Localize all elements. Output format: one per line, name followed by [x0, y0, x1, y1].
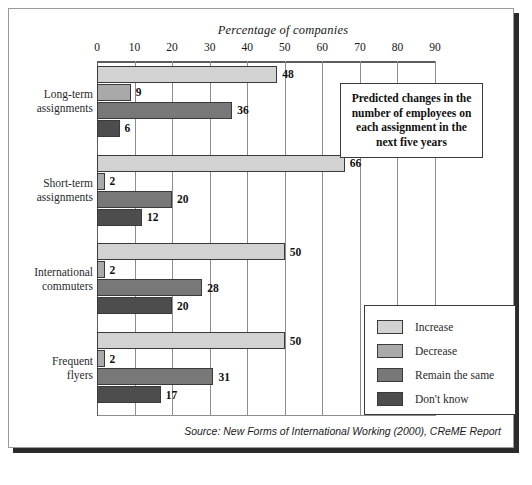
bar-value-label: 50 — [285, 335, 302, 347]
category-label-line: assignments — [9, 101, 93, 115]
bar-decrease — [97, 350, 105, 367]
bar-value-label: 36 — [232, 104, 249, 116]
legend-swatch-icon — [377, 368, 403, 382]
category-label-line: assignments — [9, 190, 93, 204]
x-tick-label-10: 10 — [129, 41, 141, 53]
x-tick-label-80: 80 — [392, 41, 404, 53]
bar-remain-the-same — [97, 102, 232, 119]
figure-card: Percentage of companies 0102030405060708… — [8, 8, 514, 448]
bar-value-label: 66 — [345, 157, 362, 169]
category-label-4: Frequentflyers — [9, 354, 93, 382]
bar-row: 50 — [97, 243, 435, 260]
legend-label: Decrease — [415, 345, 457, 357]
bar-increase — [97, 332, 285, 349]
category-label-line: flyers — [9, 368, 93, 382]
bar-value-label: 2 — [105, 353, 116, 365]
bar-row: 48 — [97, 66, 435, 83]
x-tick-label-40: 40 — [241, 41, 253, 53]
x-axis-line — [97, 61, 435, 63]
legend-item[interactable]: Remain the same — [377, 363, 515, 387]
x-tick-label-90: 90 — [429, 41, 441, 53]
x-tick-label-30: 30 — [204, 41, 216, 53]
bar-row: 2 — [97, 173, 435, 190]
bar-row: 2 — [97, 261, 435, 278]
bar-increase — [97, 243, 285, 260]
source-note: Source: New Forms of International Worki… — [184, 425, 501, 437]
category-label-2: Short-termassignments — [9, 176, 93, 204]
bar-increase — [97, 155, 345, 172]
bar-value-label: 9 — [131, 86, 142, 98]
bar-decrease — [97, 84, 131, 101]
bar-value-label: 2 — [105, 175, 116, 187]
x-tick-label-50: 50 — [279, 41, 291, 53]
bar-value-label: 12 — [142, 211, 159, 223]
bar-value-label: 17 — [161, 389, 178, 401]
x-tick-label-60: 60 — [317, 41, 329, 53]
bar-value-label: 31 — [213, 371, 230, 383]
category-label-line: commuters — [9, 279, 93, 293]
plot-bottom-border — [97, 415, 435, 416]
legend-swatch-icon — [377, 344, 403, 358]
bar-group: 6622012 — [97, 155, 435, 226]
bar-remain-the-same — [97, 279, 202, 296]
x-tick-label-0: 0 — [94, 41, 100, 53]
bar-don-t-know — [97, 297, 172, 314]
category-label-1: Long-termassignments — [9, 87, 93, 115]
axis-title: Percentage of companies — [9, 23, 513, 38]
category-label-line: Short-term — [9, 176, 93, 190]
legend-label: Remain the same — [415, 369, 494, 381]
bar-value-label: 28 — [202, 282, 219, 294]
bar-value-label: 50 — [285, 246, 302, 258]
bar-row: 20 — [97, 191, 435, 208]
x-axis-tick-labels: 0102030405060708090 — [97, 41, 435, 57]
category-label-3: Internationalcommuters — [9, 265, 93, 293]
bar-remain-the-same — [97, 368, 213, 385]
bar-decrease — [97, 261, 105, 278]
legend-label: Don't know — [415, 393, 469, 405]
bar-don-t-know — [97, 209, 142, 226]
bar-value-label: 48 — [277, 68, 294, 80]
bar-don-t-know — [97, 120, 120, 137]
bar-value-label: 6 — [120, 122, 131, 134]
legend-item[interactable]: Decrease — [377, 339, 515, 363]
bar-don-t-know — [97, 386, 161, 403]
category-label-line: Long-term — [9, 87, 93, 101]
legend-swatch-icon — [377, 320, 403, 334]
x-tick-label-20: 20 — [166, 41, 178, 53]
category-label-line: International — [9, 265, 93, 279]
legend-item[interactable]: Don't know — [377, 387, 515, 411]
bar-increase — [97, 66, 277, 83]
bar-row: 28 — [97, 279, 435, 296]
annotation-callout: Predicted changes in the number of emplo… — [340, 83, 483, 158]
bar-value-label: 20 — [172, 300, 189, 312]
bar-decrease — [97, 173, 105, 190]
legend-swatch-icon — [377, 392, 403, 406]
legend-item[interactable]: Increase — [377, 315, 515, 339]
category-label-line: Frequent — [9, 354, 93, 368]
bar-value-label: 20 — [172, 193, 189, 205]
bar-row: 12 — [97, 209, 435, 226]
legend-label: Increase — [415, 321, 453, 333]
bar-group: 5022820 — [97, 243, 435, 314]
bar-remain-the-same — [97, 191, 172, 208]
bar-value-label: 2 — [105, 264, 116, 276]
x-tick-label-70: 70 — [354, 41, 366, 53]
legend: IncreaseDecreaseRemain the sameDon't kno… — [364, 305, 516, 415]
axis-title-text: Percentage of companies — [218, 23, 349, 37]
